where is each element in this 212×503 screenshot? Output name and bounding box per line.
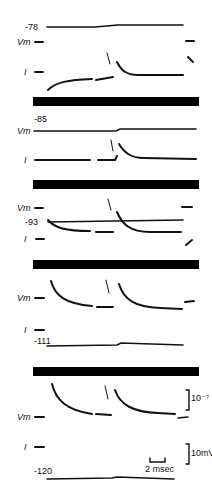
holding-potential-label: -120 xyxy=(34,466,52,476)
holding-potential-label: -78 xyxy=(25,22,38,32)
i-label: I xyxy=(24,442,27,452)
voltage-scale-label: 10mV xyxy=(191,448,212,458)
holding-potential-label: -111 xyxy=(34,336,51,346)
i-label: I xyxy=(24,155,27,165)
vm-label: Vm xyxy=(17,293,31,303)
traces xyxy=(0,0,212,503)
i-label: I xyxy=(24,234,27,244)
i-label: I xyxy=(24,67,27,77)
vm-label: Vm xyxy=(17,126,31,136)
holding-potential-label: -85 xyxy=(34,114,47,124)
vm-label: Vm xyxy=(17,412,31,422)
current-scale-label: 10⁻⁷ xyxy=(191,393,209,403)
i-label: I xyxy=(24,325,27,335)
holding-potential-label: -93 xyxy=(25,217,38,227)
time-scale-label: 2 msec xyxy=(145,464,174,474)
vm-label: Vm xyxy=(17,203,31,213)
vm-label: Vm xyxy=(17,37,31,47)
